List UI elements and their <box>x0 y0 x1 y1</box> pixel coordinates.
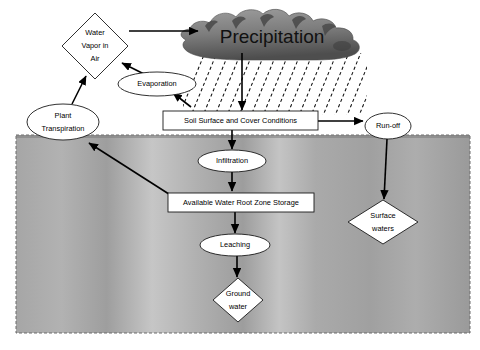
node-run-off[interactable]: Run-off <box>365 113 411 139</box>
node-plant-transpiration-label-line2: Transpiration <box>42 124 85 133</box>
node-available-water-root-zone-storage[interactable]: Available Water Root Zone Storage <box>168 193 314 212</box>
node-evaporation[interactable]: Evaporation <box>118 72 196 96</box>
node-surface-waters-label-line1: Surface <box>370 211 395 220</box>
node-water-vapor-label-line3: Air <box>90 54 100 63</box>
node-soil-surface[interactable]: Soil Surface and Cover Conditions <box>163 111 318 130</box>
node-available-water-root-zone-storage-label: Available Water Root Zone Storage <box>183 198 299 207</box>
node-leaching[interactable]: Leaching <box>200 234 270 256</box>
node-precipitation-label: Precipitation <box>220 26 325 47</box>
node-infiltration[interactable]: Infiltration <box>198 150 266 172</box>
node-water-vapor-label-line1: Water <box>85 28 105 37</box>
node-plant-transpiration[interactable]: Plant Transpiration <box>27 104 99 140</box>
node-soil-surface-label: Soil Surface and Cover Conditions <box>184 116 297 125</box>
node-water-vapor-label-line2: Vapor in <box>82 41 109 50</box>
node-plant-transpiration-label-line1: Plant <box>55 111 72 120</box>
node-leaching-label: Leaching <box>220 240 250 249</box>
node-ground-water-label-line2: water <box>228 302 248 311</box>
node-evaporation-label: Evaporation <box>137 79 176 88</box>
node-infiltration-label: Infiltration <box>216 156 248 165</box>
node-surface-waters-label-line2: waters <box>371 224 394 233</box>
node-run-off-label: Run-off <box>376 121 401 130</box>
node-ground-water-label-line1: Ground <box>226 289 251 298</box>
water-cycle-diagram: Water Vapor in Air Precipitation Evapora… <box>0 0 480 350</box>
